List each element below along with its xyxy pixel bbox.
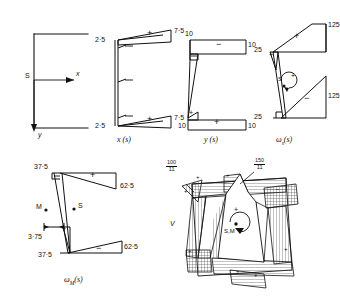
omega-s-caption: ωs(s) (276, 135, 292, 146)
y-axis-label: y (38, 131, 42, 138)
omega-s-bottom-outer-value: 125 (328, 92, 340, 99)
y-of-s-caption: y (s) (204, 135, 218, 144)
top-mid-sign: + (226, 172, 230, 178)
omega-m-bottom-web-sign: + (62, 225, 66, 232)
shear-flow-panel: 100 11 150 11 V S,M + + + − + + + + + (168, 162, 318, 294)
y-of-s-panel: 10 10 10 10 − + + y (s) (180, 26, 260, 134)
bottom-mid-sign: + (254, 272, 258, 278)
omega-m-top-outer-value: 62·5 (120, 182, 134, 189)
omega-s-bottom-flange-sign: − (304, 94, 309, 103)
shear-center-dot-sm (234, 222, 237, 225)
shear-center-label: S (25, 72, 30, 79)
x-of-s-caption: x (s) (117, 135, 131, 144)
omega-s-point-label: S (278, 76, 282, 82)
omega-m-bottom-flange-sign: − (96, 244, 101, 253)
y-top-flange-sign: − (216, 40, 221, 49)
x-axis-arrowhead (66, 77, 74, 83)
x-top-flange-sign: + (147, 29, 152, 38)
web-tick-lower (118, 115, 126, 118)
centroid-label-m: M (36, 203, 42, 210)
web-tick-mid (118, 79, 126, 82)
omega-m-top-flange-sign: + (90, 171, 95, 180)
shear-center-centroid-label: S,M (224, 228, 235, 234)
omega-m-caption: ωM(s) (64, 275, 83, 286)
right-upper-hatch (264, 184, 298, 208)
x-axis-label: x (76, 70, 80, 77)
y-bottom-left-value: 10 (178, 122, 186, 129)
centroid-dot-m (44, 208, 47, 211)
value-100-over-11: 100 11 (166, 160, 177, 173)
y-top-left-value: 10 (185, 30, 193, 37)
right-lower-sign: + (284, 246, 288, 252)
omega-s-panel: 25 125 25 125 + + + − S ωs(s) (256, 18, 336, 134)
x-bottom-flange-sign: + (147, 115, 152, 124)
omega-m-top-flange-region (60, 173, 116, 189)
omega-s-top-web-sign: + (269, 51, 273, 58)
shear-center-dot-s (72, 207, 75, 210)
rotation-arrowhead (284, 87, 289, 92)
load-label-v: V (170, 220, 175, 227)
bottom-left-sign: + (188, 248, 192, 254)
offset-arrow-left (44, 225, 49, 229)
scan-artifact (6, 2, 13, 8)
omega-m-offset-value: 3·75 (28, 233, 42, 240)
omega-m-bottom-flange-region (68, 241, 122, 253)
left-band-sign: + (184, 188, 188, 194)
shear-center-dot (283, 85, 286, 88)
x-of-s-panel: 2·5 7·5 2·5 7·5 + + x (s) (95, 26, 180, 134)
web-tick-upper (118, 45, 126, 48)
channel-cross-section-panel: S x y (18, 28, 98, 136)
y-bottom-right-value: 10 (248, 122, 256, 129)
right-upper-sign: − (276, 186, 280, 192)
omega-m-bottom-outer-value: 62·5 (124, 243, 138, 250)
x-bottom-inner-value: 2·5 (95, 122, 105, 129)
omega-s-top-flange-region (273, 24, 326, 52)
bottom-flange-sign: + (236, 268, 240, 274)
omega-m-bottom-inner-value: 37·5 (38, 251, 52, 258)
omega-s-top-inner-value: 25 (254, 46, 262, 53)
omega-m-top-inner-value: 37·5 (34, 163, 48, 170)
y-bottom-web-sign: + (189, 109, 193, 116)
shear-center-label-s: S (78, 202, 83, 209)
omega-s-mid-sign: + (291, 72, 295, 79)
omega-s-top-flange-sign: + (294, 32, 299, 41)
shear-center-sign: + (234, 206, 238, 213)
omega-s-bottom-inner-value: 25 (254, 113, 262, 120)
value-150-over-11: 150 11 (254, 158, 265, 171)
omega-m-panel: 37·5 62·5 37·5 62·5 3·75 M S + + − ωM(s) (30, 165, 140, 273)
top-left-sign: + (196, 174, 200, 180)
x-top-inner-value: 2·5 (95, 36, 105, 43)
omega-s-top-outer-value: 125 (328, 21, 340, 28)
bottom-flange-block (118, 116, 171, 128)
y-bottom-flange-sign: + (214, 118, 219, 127)
